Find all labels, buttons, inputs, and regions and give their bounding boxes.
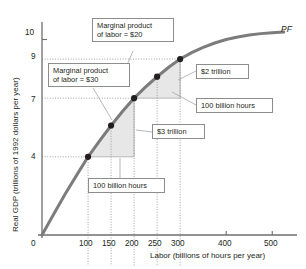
callout-mpl-20: Marginal product of labor = $20	[92, 18, 174, 42]
callout-gain-3-trillion: $3 trillion	[152, 124, 205, 139]
callout-hours-upper: 100 billion hours	[196, 98, 273, 113]
callout-gain-2-trillion: $2 trillion	[196, 64, 249, 79]
y-tick-label-4: 4	[31, 152, 36, 161]
y-tick-label-9: 9	[31, 52, 36, 61]
x-tick-label-400: 400	[218, 239, 232, 248]
callout-hours-lower: 100 billion hours	[88, 178, 165, 193]
x-tick-label-200: 200	[125, 239, 139, 248]
x-tick-label-250: 250	[148, 239, 162, 248]
x-tick-label-100: 100	[79, 239, 93, 248]
callout-mpl-30: Marginal product of labor = $30	[48, 63, 130, 87]
y-axis-title: Real GDP (trillions of 1992 dollars per …	[11, 77, 20, 232]
x-tick-label-300: 300	[171, 239, 185, 248]
y-tick-label-0: 0	[31, 239, 36, 248]
x-tick-label-150: 150	[102, 239, 116, 248]
y-tick-label-7: 7	[31, 95, 36, 104]
x-tick-label-500: 500	[264, 239, 278, 248]
pf-curve-label: PF	[281, 24, 292, 34]
x-axis-title: Labor (billions of hours per year)	[150, 251, 265, 260]
figure-root: Real GDP (trillions of 1992 dollars per …	[0, 0, 306, 269]
y-tick-label-10: 10	[25, 28, 34, 37]
